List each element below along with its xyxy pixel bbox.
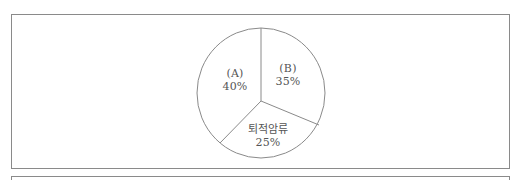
slice-sedimentary-value: 25% — [238, 136, 298, 149]
slice-a-name: (A) — [215, 67, 255, 80]
slice-b-value: 35% — [268, 75, 308, 88]
slice-label-b: (B) 35% — [268, 62, 308, 88]
slice-sedimentary-name: 퇴적암류 — [238, 123, 298, 136]
slice-a-value: 40% — [215, 80, 255, 93]
slice-b-name: (B) — [268, 62, 308, 75]
slice-label-a: (A) 40% — [215, 67, 255, 93]
pie-chart — [0, 0, 519, 180]
next-figure-frame — [11, 176, 510, 180]
slice-label-sedimentary: 퇴적암류 25% — [238, 123, 298, 149]
